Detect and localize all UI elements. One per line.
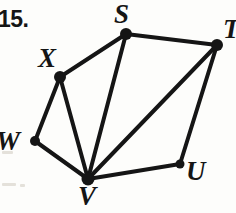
graph-edge-xw [35,77,60,141]
graph-vertex-s [120,28,132,40]
vertex-label-s: S [114,1,129,28]
vertex-label-x: X [38,45,56,72]
vertex-label-v: V [78,183,96,210]
graph-vertex-t [211,39,223,51]
graph-vertex-u [176,160,185,169]
vertex-label-w: W [0,128,20,155]
graph-vertex-w [30,136,40,146]
graph-edge-st [126,34,217,45]
vertex-label-t: T [223,16,236,43]
vertex-label-u: U [186,158,206,185]
figure-page: 15. STXWVU [0,0,236,213]
